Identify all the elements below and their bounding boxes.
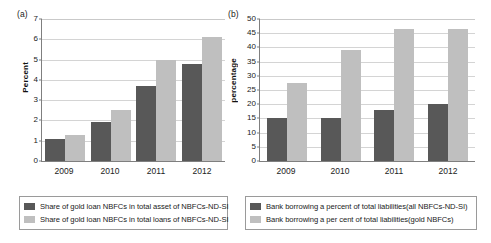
- bar-2011-series2[interactable]: [394, 29, 414, 161]
- bar-2012-series2[interactable]: [448, 29, 468, 161]
- bar-group-2010: [88, 19, 134, 161]
- x-tick-label-2011: 2011: [133, 166, 179, 176]
- chart-panel-a: (a) Percent 01234567 2009201020112012 Sh…: [0, 0, 240, 243]
- bar-2011-series2[interactable]: [156, 60, 176, 161]
- bar-group-2012: [421, 19, 475, 161]
- legend-swatch-icon: [250, 203, 261, 210]
- bar-2009-series2[interactable]: [287, 83, 307, 161]
- bar-2009-series2[interactable]: [65, 135, 85, 161]
- bar-2009-series1[interactable]: [267, 118, 287, 161]
- legend-label: Share of gold loan NBFCs in total loans …: [40, 215, 229, 224]
- bar-2009-series1[interactable]: [45, 139, 65, 161]
- bar-group-2010: [314, 19, 368, 161]
- plot-area-b: 05101520253035404550: [259, 19, 475, 162]
- y-tick-label: 1: [34, 137, 42, 145]
- y-tick-label: 45: [247, 29, 260, 37]
- y-tick-label: 20: [247, 100, 260, 108]
- x-tick-label-2010: 2010: [313, 166, 367, 176]
- bar-2012-series1[interactable]: [428, 104, 448, 161]
- y-tick-label: 0: [34, 157, 42, 165]
- y-tick-label: 3: [34, 96, 42, 104]
- legend-label: Share of gold loan NBFCs in total asset …: [40, 202, 228, 211]
- panel-tag-b: (b): [228, 9, 239, 19]
- legend-row[interactable]: Bank borrowing a per cent of total liabi…: [250, 213, 471, 226]
- legend-swatch-icon: [24, 216, 35, 223]
- bar-groups: [42, 19, 225, 161]
- y-tick-label: 4: [34, 76, 42, 84]
- bar-group-2011: [368, 19, 422, 161]
- y-axis-title-a: Percent: [21, 62, 30, 93]
- y-tick-label: 30: [247, 72, 260, 80]
- y-tick-label: 10: [247, 129, 260, 137]
- y-tick-label: 5: [34, 56, 42, 64]
- x-axis-labels-a: 2009201020112012: [41, 166, 225, 176]
- bar-2011-series1[interactable]: [374, 110, 394, 161]
- bar-group-2011: [134, 19, 180, 161]
- bar-2010-series1[interactable]: [321, 118, 341, 161]
- bar-2010-series2[interactable]: [111, 110, 131, 161]
- bar-2010-series2[interactable]: [341, 50, 361, 161]
- panel-tag-a: (a): [17, 9, 28, 19]
- bar-group-2012: [179, 19, 225, 161]
- y-tick-label: 25: [247, 86, 260, 94]
- bar-group-2009: [42, 19, 88, 161]
- legend-a: Share of gold loan NBFCs in total asset …: [19, 196, 228, 230]
- x-axis-labels-b: 2009201020112012: [259, 166, 475, 176]
- x-tick-label-2012: 2012: [421, 166, 475, 176]
- y-tick-label: 35: [247, 58, 260, 66]
- legend-swatch-icon: [250, 216, 261, 223]
- legend-swatch-icon: [24, 203, 35, 210]
- y-tick-label: 50: [247, 15, 260, 23]
- y-tick-label: 40: [247, 43, 260, 51]
- legend-row[interactable]: Share of gold loan NBFCs in total asset …: [24, 200, 222, 213]
- x-tick-label-2011: 2011: [367, 166, 421, 176]
- x-tick-label-2010: 2010: [87, 166, 133, 176]
- plot-area-a: 01234567: [41, 19, 225, 162]
- y-tick-label: 15: [247, 114, 260, 122]
- bar-2011-series1[interactable]: [136, 86, 156, 161]
- bar-2012-series2[interactable]: [202, 37, 222, 161]
- y-tick-label: 0: [252, 157, 260, 165]
- y-tick-label: 7: [34, 15, 42, 23]
- legend-label: Bank borrowing a per cent of total liabi…: [266, 215, 453, 224]
- y-tick-label: 2: [34, 116, 42, 124]
- legend-b: Bank borrowing a percent of total liabil…: [245, 196, 477, 230]
- bar-group-2009: [260, 19, 314, 161]
- y-axis-title-b: percentage: [229, 58, 238, 103]
- legend-row[interactable]: Share of gold loan NBFCs in total loans …: [24, 213, 222, 226]
- bar-groups: [260, 19, 475, 161]
- y-tick-label: 5: [252, 143, 260, 151]
- y-tick-label: 6: [34, 35, 42, 43]
- x-tick-label-2009: 2009: [41, 166, 87, 176]
- x-tick-label-2009: 2009: [259, 166, 313, 176]
- legend-label: Bank borrowing a percent of total liabil…: [266, 202, 468, 211]
- bar-2010-series1[interactable]: [91, 122, 111, 161]
- chart-panel-b: (b) percentage 05101520253035404550 2009…: [228, 0, 491, 243]
- x-tick-label-2012: 2012: [179, 166, 225, 176]
- bar-2012-series1[interactable]: [182, 64, 202, 161]
- legend-row[interactable]: Bank borrowing a percent of total liabil…: [250, 200, 471, 213]
